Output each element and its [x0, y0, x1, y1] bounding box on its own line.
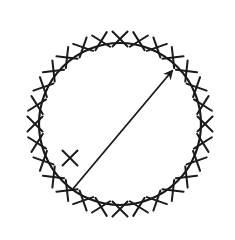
main-circle — [39, 43, 201, 205]
x-mark — [63, 151, 78, 166]
x-mark — [187, 77, 207, 97]
x-mark — [33, 151, 53, 171]
x-mark — [147, 191, 167, 211]
x-mark — [73, 37, 93, 57]
x-mark — [187, 151, 207, 171]
diagram-canvas — [0, 0, 235, 240]
diagram-svg — [0, 0, 235, 240]
diameter-arrow — [72, 71, 172, 190]
x-mark — [33, 77, 53, 97]
boundary-x-marks — [28, 32, 213, 217]
interior-x-mark — [63, 151, 78, 166]
x-mark — [147, 37, 167, 57]
x-mark — [73, 191, 93, 211]
